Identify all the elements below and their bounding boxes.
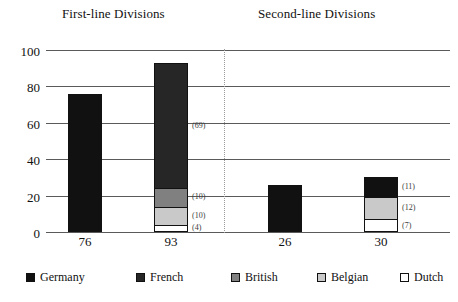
bar-segment-french <box>154 63 188 189</box>
segment-value-label: (10) <box>192 193 205 201</box>
y-axis-tick-label: 80 <box>27 81 40 94</box>
legend-swatch-germany-icon <box>26 273 35 282</box>
legend-item-dutch: Dutch <box>400 270 443 284</box>
segment-value-label: (69) <box>192 122 205 130</box>
x-axis-tick-label: 76 <box>68 234 102 249</box>
segment-value-label: (11) <box>402 183 415 191</box>
y-axis-tick-label: 40 <box>27 154 40 167</box>
y-axis-tick-label: 60 <box>27 117 40 130</box>
legend-swatch-british-icon <box>231 273 240 282</box>
legend-item-british: British <box>231 270 278 284</box>
legend-label: French <box>150 270 183 284</box>
group-heading-first-line: First-line Divisions <box>62 6 165 22</box>
bar-76 <box>68 94 102 232</box>
bar-segment-dutch <box>154 225 188 232</box>
gridline-40: 40 <box>46 159 450 160</box>
bar-segment-dutch <box>364 219 398 232</box>
segment-value-label: (12) <box>402 204 415 212</box>
legend-item-french: French <box>136 270 183 284</box>
legend-label: Dutch <box>414 270 443 284</box>
legend-label: British <box>245 270 278 284</box>
segment-value-label: (7) <box>402 222 411 230</box>
y-axis-tick-label: 20 <box>27 190 40 203</box>
group-divider-line <box>224 49 225 233</box>
gridline-0: 0 <box>46 232 450 233</box>
y-axis-tick-label: 0 <box>34 227 41 240</box>
bar-30 <box>364 177 398 232</box>
legend-swatch-belgian-icon <box>317 273 326 282</box>
plot-area: 020406080100 76(4)(10)(10)(69)9326(7)(12… <box>46 50 450 232</box>
segment-value-label: (10) <box>192 212 205 220</box>
legend-swatch-french-icon <box>136 273 145 282</box>
bar-segment-germany <box>68 94 102 232</box>
legend-label: Germany <box>40 270 85 284</box>
bar-93 <box>154 63 188 232</box>
segment-value-label: (4) <box>192 224 201 232</box>
bar-segment-british <box>154 188 188 206</box>
x-axis-tick-label: 30 <box>364 234 398 249</box>
gridline-100: 100 <box>46 50 450 51</box>
legend-label: Belgian <box>331 270 368 284</box>
legend-item-germany: Germany <box>26 270 85 284</box>
x-axis-tick-label: 93 <box>154 234 188 249</box>
bar-segment-germany <box>364 177 398 197</box>
x-axis-tick-label: 26 <box>268 234 302 249</box>
bar-26 <box>268 185 302 232</box>
bar-segment-belgian <box>154 207 188 225</box>
gridline-80: 80 <box>46 86 450 87</box>
legend-item-belgian: Belgian <box>317 270 368 284</box>
legend-swatch-dutch-icon <box>400 273 409 282</box>
stacked-bar-chart: First-line Divisions Second-line Divisio… <box>0 0 458 302</box>
bar-segment-germany <box>268 185 302 232</box>
group-headings: First-line Divisions Second-line Divisio… <box>0 6 458 26</box>
group-heading-second-line: Second-line Divisions <box>258 6 375 22</box>
y-axis-tick-label: 100 <box>21 45 41 58</box>
bar-segment-belgian <box>364 197 398 219</box>
chart-legend: GermanyFrenchBritishBelgianDutch <box>0 270 458 294</box>
gridline-60: 60 <box>46 123 450 124</box>
